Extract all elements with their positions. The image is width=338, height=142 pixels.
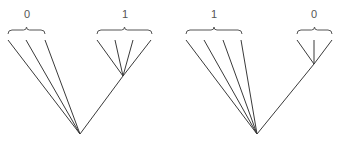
branch	[223, 40, 257, 134]
branch	[123, 40, 151, 76]
branch	[297, 40, 314, 64]
right-tree-group-0: 0	[257, 8, 332, 134]
branch	[314, 40, 332, 64]
brace	[186, 27, 242, 34]
right-tree-group-1: 1	[186, 8, 257, 134]
left-tree-group-1: 1	[80, 8, 152, 134]
left-tree-group-0: 0	[8, 8, 80, 134]
left-tree: 01	[8, 8, 152, 134]
group-label: 0	[311, 8, 317, 20]
group-label: 1	[211, 8, 217, 20]
stem-branch	[80, 76, 123, 134]
brace	[8, 27, 45, 34]
right-tree: 10	[186, 8, 332, 134]
branch	[186, 40, 257, 134]
brace	[97, 27, 152, 34]
group-label: 0	[24, 8, 30, 20]
stem-branch	[257, 64, 314, 134]
brace	[297, 27, 332, 34]
branch	[123, 40, 133, 76]
branch	[8, 40, 80, 134]
group-label: 1	[122, 8, 128, 20]
tree-diagram: 0110	[0, 0, 338, 142]
branch	[45, 40, 80, 134]
branch	[26, 40, 80, 134]
